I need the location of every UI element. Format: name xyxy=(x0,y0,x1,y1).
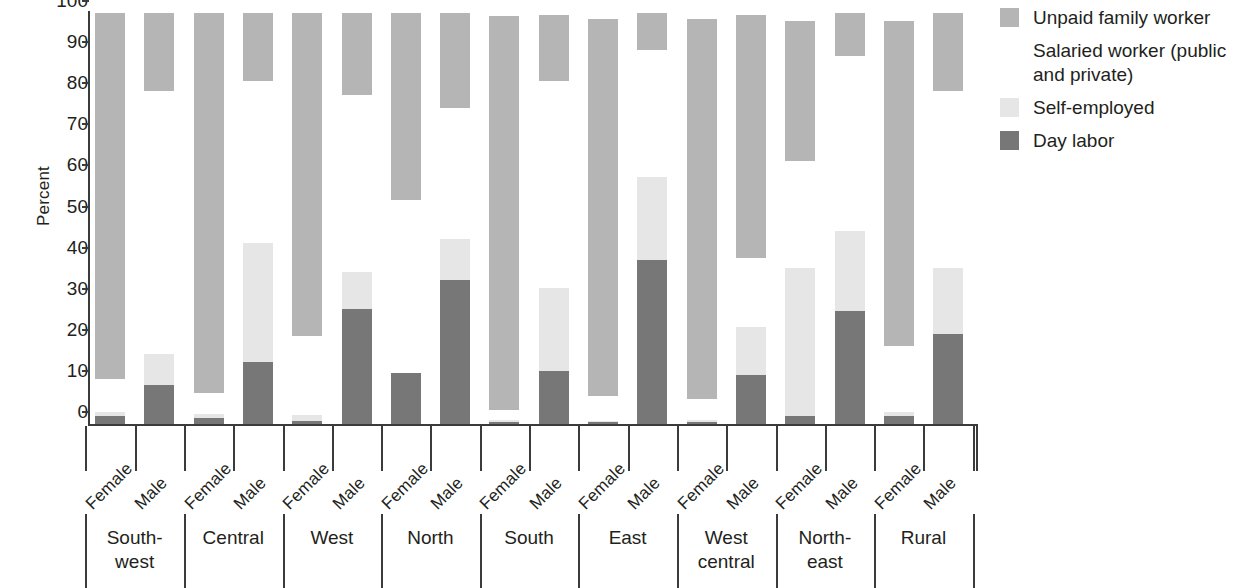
bar-segment-unpaid-family-worker xyxy=(243,13,273,81)
x-tick-mark xyxy=(677,426,679,471)
bar-segment-day-labor xyxy=(440,280,470,424)
bar-segment-day-labor xyxy=(785,416,815,424)
category-label-female: Female xyxy=(378,459,433,514)
category-label-male: Male xyxy=(427,473,468,514)
bar-segment-unpaid-family-worker xyxy=(835,13,865,56)
bar-segment-unpaid-family-worker xyxy=(785,21,815,161)
category-label-female: Female xyxy=(575,459,630,514)
group-label-line1: Central xyxy=(184,526,283,550)
bar-segment-salaried-worker xyxy=(144,91,174,354)
category-label-male: Male xyxy=(821,473,862,514)
legend-item: Self-employed xyxy=(1000,96,1250,120)
category-label-female: Female xyxy=(180,459,235,514)
group-label-line1: North- xyxy=(776,526,875,550)
legend-item: Day labor xyxy=(1000,129,1250,153)
bar-segment-salaried-worker xyxy=(637,50,667,177)
bar-segment-day-labor xyxy=(835,311,865,424)
x-tick-mark xyxy=(973,426,975,471)
bar-segment-unpaid-family-worker xyxy=(489,16,519,409)
category-label-male: Male xyxy=(920,473,961,514)
bar-segment-self-employed xyxy=(440,239,470,280)
bar-segment-unpaid-family-worker xyxy=(637,13,667,50)
bar xyxy=(342,13,372,424)
bar-segment-salaried-worker xyxy=(391,200,421,373)
x-tick-mark xyxy=(283,426,285,471)
x-tick-mark xyxy=(776,426,778,471)
group-label-line1: Rural xyxy=(874,526,973,550)
bar-segment-unpaid-family-worker xyxy=(194,13,224,393)
group-label-line1: South- xyxy=(85,526,184,550)
bar-segment-day-labor xyxy=(687,422,717,424)
category-label-male: Male xyxy=(723,473,764,514)
bar-segment-unpaid-family-worker xyxy=(884,21,914,346)
group-label-line1: West xyxy=(677,526,776,550)
bar-segment-salaried-worker xyxy=(95,379,125,412)
bar xyxy=(440,13,470,424)
bar-segment-self-employed xyxy=(194,414,224,418)
bar-segment-self-employed xyxy=(243,243,273,362)
x-tick-mark xyxy=(135,426,137,471)
group-label: East xyxy=(578,526,677,550)
bar-segment-unpaid-family-worker xyxy=(342,13,372,95)
x-tick-mark xyxy=(85,426,87,471)
bar-segment-unpaid-family-worker xyxy=(391,13,421,200)
group-label: West xyxy=(283,526,382,550)
x-axis-right-end xyxy=(976,424,978,471)
bar-segment-unpaid-family-worker xyxy=(539,15,569,81)
x-tick-mark xyxy=(480,426,482,471)
group-separator xyxy=(973,514,975,588)
bar-segment-day-labor xyxy=(884,416,914,424)
legend-label: Salaried worker (public and private) xyxy=(1033,39,1250,87)
legend-label: Day labor xyxy=(1033,129,1114,153)
x-tick-mark xyxy=(332,426,334,471)
legend-label: Self-employed xyxy=(1033,96,1154,120)
bar-segment-self-employed xyxy=(736,327,766,374)
bar-segment-day-labor xyxy=(489,422,519,424)
bar-segment-unpaid-family-worker xyxy=(144,13,174,91)
bar xyxy=(489,13,519,424)
legend-swatch xyxy=(1000,131,1019,150)
legend-item: Salaried worker (public and private) xyxy=(1000,39,1250,87)
bar-segment-salaried-worker xyxy=(292,336,322,415)
group-label-line1: East xyxy=(578,526,677,550)
bar-segment-salaried-worker xyxy=(736,258,766,328)
legend-swatch xyxy=(1000,8,1019,27)
legend-label: Unpaid family worker xyxy=(1033,6,1210,30)
group-label: Central xyxy=(184,526,283,550)
x-tick-mark xyxy=(628,426,630,471)
bar xyxy=(588,13,618,424)
group-label: North-east xyxy=(776,526,875,574)
bar-segment-self-employed xyxy=(637,177,667,259)
bar xyxy=(785,13,815,424)
plot-area xyxy=(88,13,976,424)
group-label-line2: east xyxy=(776,550,875,574)
bar-segment-self-employed xyxy=(342,272,372,309)
bar-segment-day-labor xyxy=(539,371,569,424)
bar-segment-salaried-worker xyxy=(539,81,569,289)
bar-segment-self-employed xyxy=(588,421,618,422)
bar xyxy=(835,13,865,424)
legend-swatch xyxy=(1000,41,1019,60)
bar-segment-salaried-worker xyxy=(489,410,519,420)
y-axis-ticks: 1009080706050403020100 xyxy=(42,0,88,430)
x-tick-mark xyxy=(184,426,186,471)
bar xyxy=(292,13,322,424)
group-label-line1: South xyxy=(480,526,579,550)
bar-segment-unpaid-family-worker xyxy=(736,15,766,257)
bar xyxy=(95,13,125,424)
bar-segment-salaried-worker xyxy=(243,81,273,243)
x-tick-mark xyxy=(233,426,235,471)
bar-segment-salaried-worker xyxy=(194,393,224,414)
bar-segment-self-employed xyxy=(95,412,125,416)
bar-segment-self-employed xyxy=(539,288,569,370)
legend: Unpaid family workerSalaried worker (pub… xyxy=(1000,6,1250,162)
bar xyxy=(884,13,914,424)
category-label-female: Female xyxy=(476,459,531,514)
bar-segment-salaried-worker xyxy=(884,346,914,412)
group-label-line1: West xyxy=(283,526,382,550)
group-label: South xyxy=(480,526,579,550)
bar-segment-day-labor xyxy=(736,375,766,424)
category-label-female: Female xyxy=(82,459,137,514)
x-axis-line xyxy=(88,424,978,426)
bar-segment-self-employed xyxy=(292,415,322,421)
